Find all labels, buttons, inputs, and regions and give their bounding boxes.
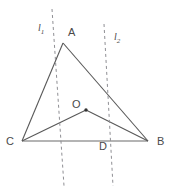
line-label-l1: l1 [38,23,44,36]
vertex-label-O: O [72,99,81,110]
vertex-label-B: B [157,136,164,147]
line-label-l2: l2 [114,32,120,45]
segment-OB [86,110,148,141]
vertex-label-C: C [6,136,14,147]
segment-AB [63,43,148,141]
segment-OC [22,110,86,141]
vertex-label-A: A [68,27,75,38]
line-label-l2-subscript: 2 [117,37,121,45]
line-l1 [52,9,64,186]
line-label-l1-subscript: 1 [41,28,45,36]
geometry-figure: A B C D O l1 l2 [0,0,177,191]
geometry-canvas [0,0,177,191]
line-l2 [104,24,113,186]
vertex-label-D: D [99,141,107,152]
point-O-dot [84,108,87,111]
segment-AC [22,43,63,141]
